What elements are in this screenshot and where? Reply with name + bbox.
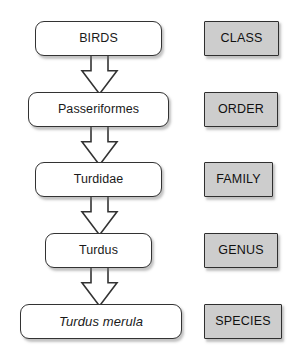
taxon-node-turdidae: Turdidae xyxy=(35,162,162,197)
taxon-name-label: Turdus merula xyxy=(59,315,143,328)
rank-label: FAMILY xyxy=(216,173,261,186)
taxon-node-birds: BIRDS xyxy=(35,21,162,56)
taxonomy-diagram: BIRDSCLASSPasseriformesORDERTurdidaeFAMI… xyxy=(0,0,297,362)
rank-box-order: ORDER xyxy=(204,92,278,127)
rank-label: SPECIES xyxy=(215,315,271,328)
rank-box-class: CLASS xyxy=(204,21,279,56)
taxon-name-label: Turdidae xyxy=(74,173,124,186)
rank-box-species: SPECIES xyxy=(204,304,282,339)
taxon-node-turdus-merula: Turdus merula xyxy=(20,304,182,339)
arrow-turdidae-to-turdus xyxy=(80,195,119,235)
taxon-name-label: Passeriformes xyxy=(58,103,139,116)
rank-label: ORDER xyxy=(218,103,264,116)
arrow-passeriformes-to-turdidae xyxy=(80,125,119,165)
arrow-turdus-to-turdus-merula xyxy=(80,266,119,306)
rank-label: CLASS xyxy=(221,32,263,45)
taxon-node-turdus: Turdus xyxy=(45,233,152,268)
arrow-birds-to-passeriformes xyxy=(80,54,119,94)
rank-box-family: FAMILY xyxy=(204,162,273,197)
rank-box-genus: GENUS xyxy=(204,233,278,268)
taxon-name-label: Turdus xyxy=(79,244,118,257)
taxon-name-label: BIRDS xyxy=(79,32,118,45)
taxon-node-passeriformes: Passeriformes xyxy=(28,92,169,127)
rank-label: GENUS xyxy=(218,244,263,257)
